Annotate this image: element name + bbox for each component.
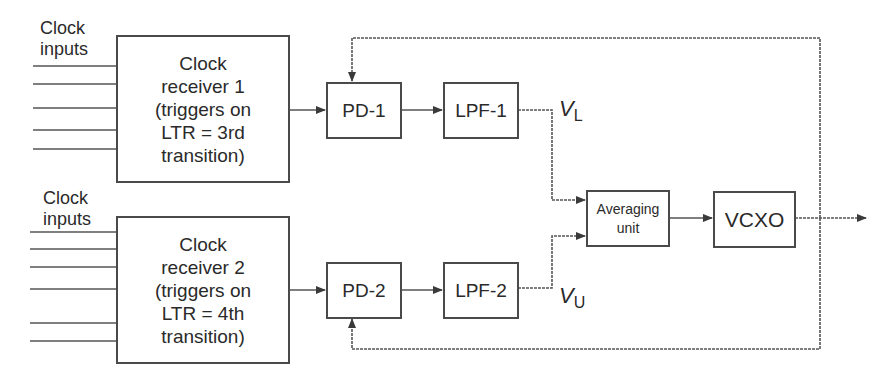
block-label: PD-2 <box>342 280 385 302</box>
voltage-symbol: V <box>559 96 574 121</box>
text-line: receiver 1 <box>155 75 251 98</box>
clock-receiver-1: Clock receiver 1 (triggers on LTR = 3rd … <box>116 35 290 183</box>
input-group-2-label: Clock inputs <box>43 188 91 230</box>
text-line: (triggers on <box>155 98 251 121</box>
voltage-subscript: L <box>574 107 583 124</box>
text-line: LTR = 3rd <box>155 121 251 144</box>
text-line: transition) <box>155 325 251 348</box>
text-line: transition) <box>155 144 251 167</box>
text-line: Averaging <box>597 200 660 219</box>
text-line: LTR = 4th <box>155 302 251 325</box>
text-line: Clock <box>155 52 251 75</box>
block-label: PD-1 <box>342 100 385 122</box>
input-group-1-label: Clock inputs <box>40 18 88 60</box>
clock-receiver-2: Clock receiver 2 (triggers on LTR = 4th … <box>116 216 290 364</box>
block-label: LPF-2 <box>455 280 507 302</box>
voltage-symbol: V <box>559 283 574 308</box>
low-pass-filter-1: LPF-1 <box>443 82 519 139</box>
label-line: Clock <box>43 188 91 209</box>
voltage-label-upper: VU <box>559 283 585 312</box>
phase-detector-1: PD-1 <box>326 82 402 139</box>
voltage-label-lower: VL <box>559 96 583 125</box>
voltage-subscript: U <box>574 294 586 311</box>
label-line: inputs <box>40 39 88 60</box>
text-line: (triggers on <box>155 279 251 302</box>
text-line: receiver 2 <box>155 256 251 279</box>
low-pass-filter-2: LPF-2 <box>443 262 519 319</box>
text-line: unit <box>597 219 660 238</box>
text-line: Clock <box>155 233 251 256</box>
block-label: LPF-1 <box>455 100 507 122</box>
averaging-unit: Averaging unit <box>586 190 670 247</box>
block-label: VCXO <box>725 208 785 232</box>
vcxo-oscillator: VCXO <box>713 191 796 248</box>
label-line: Clock <box>40 18 88 39</box>
phase-detector-2: PD-2 <box>326 262 402 319</box>
label-line: inputs <box>43 209 91 230</box>
